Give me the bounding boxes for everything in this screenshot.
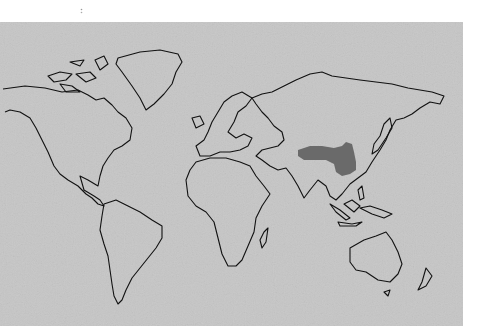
map-svg — [0, 22, 463, 326]
scan-speck — [80, 8, 83, 14]
paper-texture — [0, 22, 463, 326]
world-map: World map with continent outlines; a reg… — [0, 22, 463, 326]
